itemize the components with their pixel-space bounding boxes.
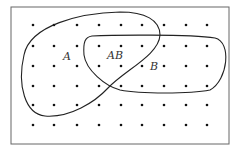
- sample-point: [141, 45, 144, 48]
- sample-point: [206, 124, 209, 127]
- sample-point: [98, 24, 101, 27]
- sample-point: [32, 65, 35, 68]
- sample-point: [76, 85, 79, 88]
- sample-point: [120, 45, 123, 48]
- sample-point: [206, 24, 209, 27]
- sample-point: [141, 85, 144, 88]
- sample-point: [141, 65, 144, 68]
- sample-point: [120, 124, 123, 127]
- sample-point: [185, 24, 188, 27]
- sample-point: [163, 124, 166, 127]
- sample-point: [206, 85, 209, 88]
- sample-point: [120, 24, 123, 27]
- sample-point: [163, 24, 166, 27]
- sample-point: [120, 85, 123, 88]
- sample-point: [163, 45, 166, 48]
- sample-point: [98, 85, 101, 88]
- label-b: B: [149, 60, 158, 73]
- sample-point: [76, 65, 79, 68]
- sample-point: [98, 45, 101, 48]
- sample-point: [98, 124, 101, 127]
- sample-point: [76, 45, 79, 48]
- sample-point: [141, 104, 144, 107]
- sample-space-frame: [11, 7, 229, 144]
- sample-point: [53, 104, 56, 107]
- sample-point: [206, 45, 209, 48]
- sample-point: [76, 104, 79, 107]
- sample-point: [163, 85, 166, 88]
- sample-point: [53, 65, 56, 68]
- sample-point: [32, 85, 35, 88]
- set-a-outline: [22, 12, 160, 116]
- sample-point: [32, 124, 35, 127]
- sample-point: [32, 45, 35, 48]
- sample-point: [98, 104, 101, 107]
- sample-point: [185, 124, 188, 127]
- sample-point: [53, 45, 56, 48]
- sample-point: [206, 104, 209, 107]
- label-a: A: [62, 50, 71, 63]
- sample-point: [120, 65, 123, 68]
- sample-point: [185, 104, 188, 107]
- sample-point: [76, 24, 79, 27]
- venn-diagram: A AB B: [0, 0, 238, 153]
- sample-point: [141, 124, 144, 127]
- sample-point: [53, 124, 56, 127]
- sample-point: [206, 65, 209, 68]
- sample-point: [32, 24, 35, 27]
- sample-point: [98, 65, 101, 68]
- sample-point: [185, 85, 188, 88]
- sample-point: [53, 85, 56, 88]
- sample-point: [76, 124, 79, 127]
- sample-point: [120, 104, 123, 107]
- sample-points: [32, 24, 209, 127]
- sample-point: [32, 104, 35, 107]
- label-ab: AB: [106, 49, 123, 62]
- sample-point: [163, 65, 166, 68]
- sample-point: [185, 45, 188, 48]
- sample-point: [185, 65, 188, 68]
- sample-point: [163, 104, 166, 107]
- sample-point: [141, 24, 144, 27]
